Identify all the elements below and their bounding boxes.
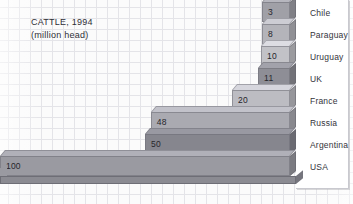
chart-title: CATTLE, 1994 [31, 16, 93, 29]
category-label-paraguay: Paraguay [310, 30, 348, 40]
category-label-russia: Russia [310, 118, 337, 128]
category-label-argentina: Argentina [310, 140, 348, 150]
category-label-panel [296, 0, 349, 189]
cattle-bar-chart: CATTLE, 1994 (million head) 381011204850… [0, 0, 353, 204]
category-label-usa: USA [310, 162, 328, 172]
bar-value-label: 100 [6, 161, 21, 171]
bar-usa: 100 [0, 156, 290, 176]
bar-value-label: 8 [268, 29, 273, 39]
bar-front-face: 100 [0, 156, 290, 176]
category-label-france: France [310, 96, 338, 106]
category-label-uk: UK [310, 74, 322, 84]
chart-subtitle: (million head) [31, 29, 93, 42]
bar-value-label: 10 [267, 51, 277, 61]
chart-title-block: CATTLE, 1994 (million head) [31, 16, 93, 41]
category-label-uruguay: Uruguay [310, 52, 344, 62]
category-label-chile: Chile [310, 8, 330, 18]
bar-value-label: 48 [157, 117, 167, 127]
base-front-edge [0, 176, 296, 184]
bar-value-label: 3 [268, 7, 273, 17]
bar-value-label: 11 [264, 73, 273, 83]
bar-value-label: 20 [238, 95, 248, 105]
bar-value-label: 50 [151, 139, 161, 149]
